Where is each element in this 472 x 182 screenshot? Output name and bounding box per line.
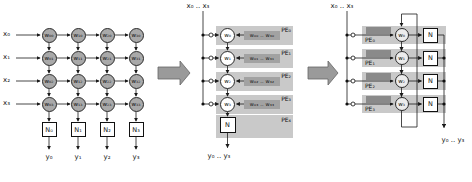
figure-canvas: x₀ x₁ x₂ x₃ w₀₀ w₁₀ w₂₀ w₃₀ w₀₁ w₁₁ w₂₁ …: [0, 0, 472, 182]
weight-memory: [366, 73, 391, 81]
weight-memory: [366, 96, 391, 104]
pe-label: PE₀: [365, 36, 375, 43]
pe-label: PE₂: [365, 82, 375, 89]
output-bus-label: y₀ .. y₃: [437, 136, 469, 144]
neuron-box: N: [423, 51, 438, 66]
neuron-box: N: [423, 28, 438, 43]
pe-label: PE₃: [365, 105, 375, 112]
weight-memory: [366, 27, 391, 35]
mac-node: w₁: [395, 51, 409, 65]
mac-node: w₂: [395, 74, 409, 88]
input-bus-label: x₀ .. x₃: [326, 2, 358, 10]
neuron-box: N: [423, 97, 438, 112]
right-panel: x₀ .. x₃ PE₀ PE₁ PE₂ PE₃ w₀ w₁ w₂ w₃ N N…: [0, 0, 472, 182]
neuron-box: N: [423, 74, 438, 89]
weight-memory: [366, 50, 391, 58]
pe-label: PE₁: [365, 59, 375, 66]
mac-node: w₀: [395, 28, 409, 42]
mac-node: w₃: [395, 97, 409, 111]
